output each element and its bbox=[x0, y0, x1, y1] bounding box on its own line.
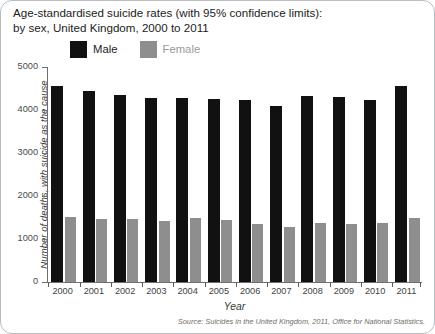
plot-area: 010002000300040005000 200020012002200320… bbox=[47, 67, 422, 282]
legend-label-female: Female bbox=[163, 44, 201, 55]
x-axis-tick-label: 2009 bbox=[328, 286, 359, 296]
bar-female-2002 bbox=[127, 219, 138, 282]
bar-female-2006 bbox=[252, 224, 263, 282]
x-axis-tick bbox=[420, 282, 421, 287]
x-axis-tick-label: 2008 bbox=[297, 286, 328, 296]
bar-male-2003 bbox=[145, 98, 157, 282]
bar-male-2001 bbox=[83, 91, 95, 282]
chart-card: Age-standardised suicide rates (with 95%… bbox=[0, 0, 435, 334]
x-axis-tick-label: 2003 bbox=[141, 286, 172, 296]
bar-female-2003 bbox=[159, 221, 170, 282]
x-axis-tick-label: 2004 bbox=[172, 286, 203, 296]
chart-title-line-1: Age-standardised suicide rates (with 95%… bbox=[13, 5, 425, 20]
y-axis-tick-label: 0 bbox=[33, 276, 38, 286]
bar-female-2010 bbox=[377, 223, 388, 282]
bar-male-2008 bbox=[301, 96, 313, 282]
y-axis-tick: 1000 bbox=[42, 239, 47, 240]
legend-label-male: Male bbox=[93, 44, 118, 55]
x-axis-title: Year bbox=[47, 301, 422, 312]
y-axis-tick-label: 4000 bbox=[18, 104, 38, 114]
bar-female-2004 bbox=[190, 218, 201, 282]
bar-male-2000 bbox=[51, 86, 63, 282]
legend-item-female: Female bbox=[140, 41, 201, 58]
legend-item-male: Male bbox=[70, 41, 118, 58]
y-axis-tick-label: 3000 bbox=[18, 147, 38, 157]
bar-male-2002 bbox=[114, 95, 126, 282]
x-axis-tick-label: 2006 bbox=[235, 286, 266, 296]
bar-female-2007 bbox=[284, 227, 295, 282]
y-axis-tick-label: 5000 bbox=[18, 61, 38, 71]
x-axis-tick-label: 2001 bbox=[78, 286, 109, 296]
x-axis-tick-label: 2000 bbox=[47, 286, 78, 296]
x-axis-line bbox=[47, 282, 422, 283]
bar-male-2009 bbox=[333, 97, 345, 282]
x-axis-tick-label: 2002 bbox=[110, 286, 141, 296]
bar-male-2007 bbox=[270, 106, 282, 282]
y-axis-tick: 0 bbox=[42, 282, 47, 283]
y-axis-tick: 5000 bbox=[42, 67, 47, 68]
bar-female-2011 bbox=[409, 218, 420, 282]
x-axis-tick-label: 2011 bbox=[391, 286, 422, 296]
source-note: Source: Suicides in the United Kingdom, … bbox=[178, 317, 425, 326]
y-axis-tick-label: 1000 bbox=[18, 233, 38, 243]
bar-female-2008 bbox=[315, 223, 326, 282]
legend-swatch-male bbox=[70, 41, 87, 58]
y-axis-line bbox=[47, 67, 48, 282]
y-axis-tick: 2000 bbox=[42, 196, 47, 197]
bar-male-2005 bbox=[208, 99, 220, 282]
bar-male-2006 bbox=[239, 100, 251, 282]
bar-female-2005 bbox=[221, 220, 232, 282]
chart-title-line-2: by sex, United Kingdom, 2000 to 2011 bbox=[13, 20, 425, 35]
bar-male-2010 bbox=[364, 100, 376, 282]
x-axis-tick-label: 2007 bbox=[266, 286, 297, 296]
y-axis-tick-label: 2000 bbox=[18, 190, 38, 200]
x-axis-tick-label: 2005 bbox=[203, 286, 234, 296]
bar-male-2011 bbox=[395, 86, 407, 283]
bar-female-2000 bbox=[65, 217, 76, 282]
bar-male-2004 bbox=[176, 98, 188, 282]
bar-female-2009 bbox=[346, 224, 357, 282]
y-axis-tick: 3000 bbox=[42, 153, 47, 154]
y-axis-tick: 4000 bbox=[42, 110, 47, 111]
bar-female-2001 bbox=[96, 219, 107, 282]
legend-swatch-female bbox=[140, 41, 157, 58]
chart-legend: Male Female bbox=[70, 41, 200, 58]
x-axis-tick-label: 2010 bbox=[360, 286, 391, 296]
chart-title: Age-standardised suicide rates (with 95%… bbox=[13, 5, 425, 35]
